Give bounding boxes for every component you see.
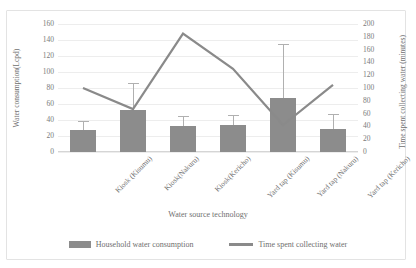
grid-line bbox=[58, 152, 358, 153]
y-axis-right-tick: 40 bbox=[363, 122, 371, 130]
line-series bbox=[58, 24, 358, 152]
legend-item-line: Time spent collecting water bbox=[229, 240, 347, 249]
y-axis-right-tick: 0 bbox=[363, 148, 367, 156]
y-axis-right-tick: 100 bbox=[363, 84, 374, 92]
y-axis-left-tick: 60 bbox=[47, 100, 55, 108]
y-axis-right-title: Time spent collecting water (minutes) bbox=[398, 22, 410, 162]
legend-label-bars: Household water consumption bbox=[96, 240, 194, 249]
y-axis-right-tick: 200 bbox=[363, 20, 374, 28]
y-axis-left-title: Water consumption(Lcpd) bbox=[12, 24, 24, 152]
legend-item-bars: Household water consumption bbox=[69, 240, 194, 249]
y-axis-left-tick: 100 bbox=[43, 68, 54, 76]
y-axis-left-tick: 0 bbox=[50, 148, 54, 156]
y-axis-right-tick: 80 bbox=[363, 97, 371, 105]
x-axis-tick-labels: Kiosk (Kisumu)Kiosk(Nakuru)Kiosk(Kericho… bbox=[58, 154, 358, 210]
x-axis-category-label: Kiosk(Nakuru) bbox=[162, 154, 200, 192]
y-axis-right-tick: 180 bbox=[363, 33, 374, 41]
bar-swatch-icon bbox=[69, 241, 91, 248]
chart-title: Source of water bbox=[0, 0, 416, 1]
x-axis-category-label: Yard tap (Kisumu) bbox=[265, 154, 311, 200]
y-axis-left-tick: 140 bbox=[43, 36, 54, 44]
y-axis-left-tick: 120 bbox=[43, 52, 54, 60]
legend-label-line: Time spent collecting water bbox=[258, 240, 347, 249]
y-axis-left-tick: 20 bbox=[47, 132, 55, 140]
y-axis-right-tick: 60 bbox=[363, 110, 371, 118]
y-axis-right-tick: 160 bbox=[363, 46, 374, 54]
x-axis-category-label: Kiosk(Kericho) bbox=[213, 154, 253, 194]
x-axis-title: Water source technology bbox=[58, 210, 358, 219]
chart-container: Source of water Water consumption(Lcpd) … bbox=[0, 0, 416, 268]
y-axis-right-tick: 140 bbox=[363, 58, 374, 66]
y-axis-left-tick: 80 bbox=[47, 84, 55, 92]
x-axis-category-label: Yard tap (Nakuru) bbox=[315, 154, 360, 199]
chart-legend: Household water consumption Time spent c… bbox=[0, 240, 416, 249]
y-axis-right-tick: 20 bbox=[363, 135, 371, 143]
y-axis-left-tick: 40 bbox=[47, 116, 55, 124]
plot-area: 0204060801001201401600204060801001201401… bbox=[58, 24, 358, 152]
line-swatch-icon bbox=[229, 243, 253, 246]
y-axis-left-tick: 160 bbox=[43, 20, 54, 28]
x-axis-category-label: Kiosk (Kisumu) bbox=[113, 154, 154, 195]
y-axis-right-tick: 120 bbox=[363, 71, 374, 79]
